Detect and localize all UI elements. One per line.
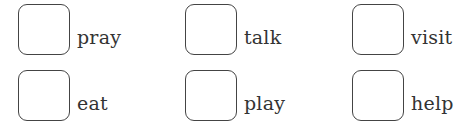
item-eat: eat: [18, 70, 108, 121]
word-label: visit: [411, 26, 452, 48]
word-label: pray: [77, 26, 121, 48]
item-play: play: [185, 70, 285, 121]
answer-box[interactable]: [185, 4, 237, 55]
word-label: talk: [244, 26, 281, 48]
answer-box[interactable]: [352, 4, 404, 55]
word-label: play: [244, 92, 285, 114]
word-label: help: [411, 92, 454, 114]
answer-box[interactable]: [18, 4, 70, 55]
answer-box[interactable]: [18, 70, 70, 121]
item-visit: visit: [352, 4, 452, 55]
item-help: help: [352, 70, 454, 121]
answer-box[interactable]: [185, 70, 237, 121]
word-label: eat: [77, 92, 108, 114]
item-talk: talk: [185, 4, 281, 55]
item-pray: pray: [18, 4, 121, 55]
answer-box[interactable]: [352, 70, 404, 121]
